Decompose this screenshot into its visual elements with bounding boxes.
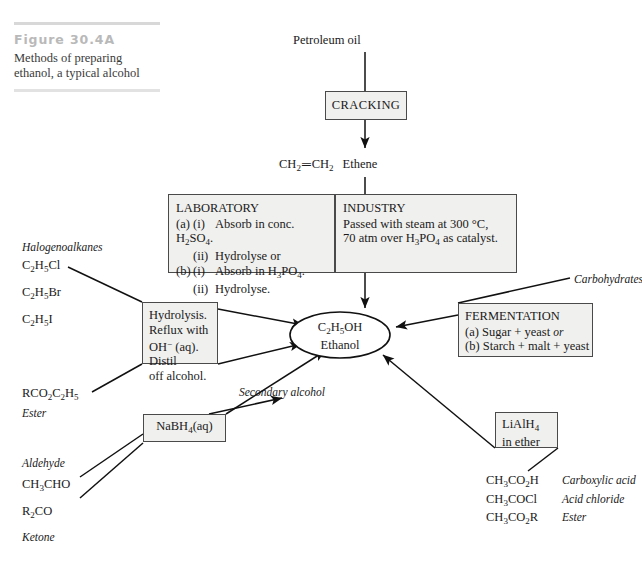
laboratory-step: (ii)Hydrolyse or	[176, 249, 334, 264]
product-row: CH3CO2HCarboxylic acid	[486, 473, 636, 492]
ethanol-name: Ethanol	[290, 338, 390, 352]
product-name: Ester	[562, 511, 586, 523]
laboratory-step-text: Hydrolyse or	[215, 249, 281, 263]
formula-part: C	[52, 386, 60, 400]
ethene-c-b: CH	[312, 157, 329, 171]
formula-part: R	[530, 510, 538, 524]
hydrolysis-line-1: Hydrolysis.	[149, 308, 217, 323]
nabh4-box: NaBH4(aq)	[143, 414, 226, 442]
line-ester-to-hydrolysis	[92, 364, 142, 392]
formula-part: CH	[486, 492, 503, 506]
fermentation-option-b: (b) Starch + malt + yeast	[465, 339, 592, 354]
formula-part: CO	[508, 473, 525, 487]
ketone-formula: R2CO	[22, 504, 52, 522]
laboratory-step-mid: SO	[190, 231, 206, 245]
industry-title: INDUSTRY	[343, 201, 516, 216]
secondary-alcohol-label: Secondary alcohol	[239, 385, 325, 399]
laboratory-step-roman: (i)	[193, 264, 215, 279]
arrow-nabh4-to-ethanol	[226, 351, 325, 414]
line-carbohydrates-to-fermentation	[458, 278, 570, 303]
lialh4-box: LiAlH4 in ether	[495, 412, 558, 448]
ketone-label: Ketone	[22, 530, 55, 544]
fermentation-title: FERMENTATION	[465, 309, 592, 324]
laboratory-step-marker: (a)	[176, 217, 193, 232]
industry-line-2: 70 atm over H3PO4 as catalyst.	[343, 231, 516, 249]
ester-formula: RCO2C2H5	[22, 386, 79, 404]
cracking-label: CRACKING	[332, 98, 400, 113]
ethene-double-bond: ═	[302, 157, 311, 171]
formula-part: H	[35, 258, 44, 272]
ethene-c-a: CH	[279, 157, 296, 171]
laboratory-step-marker: (b)	[176, 264, 193, 279]
laboratory-step-post: .	[210, 231, 213, 245]
ethene-label: CH2═CH2Ethene	[279, 157, 377, 175]
laboratory-step: (a)(i)Absorb in conc. H2SO4.	[176, 217, 334, 250]
formula-sub: 5	[74, 392, 79, 402]
hydrolysis-line-3: OH− (aq). Distil	[149, 337, 217, 369]
laboratory-step: (b)(i)Absorb in H3PO4.	[176, 264, 334, 282]
nabh4-formula: NaBH4(aq)	[156, 419, 213, 437]
formula-part: Br	[48, 285, 61, 299]
product-name: Acid chloride	[562, 493, 624, 505]
formula-part: H	[35, 312, 44, 326]
line-products-to-lialh4	[528, 448, 558, 471]
formula-part: CO	[508, 510, 525, 524]
laboratory-step-roman: (ii)	[193, 249, 215, 264]
formula-part: OH	[344, 320, 362, 334]
formula-part: CH	[486, 510, 503, 524]
halogenoalkanes-label: Halogenoalkanes	[22, 240, 102, 254]
laboratory-title: LABORATORY	[176, 201, 334, 216]
industry-box: INDUSTRY Passed with steam at 300 °C, 70…	[335, 194, 517, 273]
lialh4-formula: LiAlH4	[502, 417, 557, 435]
hydrolysis-line-2: Reflux with	[149, 323, 217, 338]
ethene-sub-a: 2	[296, 163, 301, 173]
fermentation-box: FERMENTATION (a) Sugar + yeast or (b) St…	[458, 303, 593, 357]
petroleum-oil-label: Petroleum oil	[293, 33, 361, 47]
laboratory-step-roman: (ii)	[193, 282, 215, 297]
laboratory-step-mid: PO	[281, 264, 297, 278]
ethanol-formula: C2H5OH	[290, 320, 390, 338]
fermentation-option-a: (a) Sugar + yeast or	[465, 325, 592, 340]
aldehyde-formula: CH3CHO	[22, 477, 70, 495]
formula-part: NaBH	[156, 419, 188, 433]
laboratory-step-text: Hydrolyse.	[215, 282, 270, 296]
ethene-sub-b: 2	[329, 163, 334, 173]
figure-page: Figure 30.4A Methods of preparing ethano…	[0, 0, 642, 562]
formula-part: C	[318, 320, 326, 334]
halogenoalkane-item: C2H5I	[22, 312, 53, 330]
product-row: CH3CO2REster	[486, 510, 636, 529]
industry-line2-mid: PO	[419, 231, 435, 245]
aldehyde-label: Aldehyde	[22, 456, 65, 470]
formula-part: H	[331, 320, 340, 334]
formula-part: H	[530, 473, 539, 487]
cracking-box: CRACKING	[325, 91, 407, 120]
formula-sub: 4	[535, 423, 540, 433]
product-row: CH3COClAcid chloride	[486, 492, 636, 511]
carbohydrates-label: Carbohydrates	[574, 272, 642, 286]
formula-part: H	[35, 285, 44, 299]
lialh4-solvent: in ether	[502, 435, 557, 450]
industry-line-1: Passed with steam at 300 °C,	[343, 217, 516, 232]
line-halogenoalkanes-to-hydrolysis	[68, 267, 142, 302]
arrow-lialh4-to-ethanol	[383, 355, 495, 448]
hydrolysis-oh: OH	[149, 340, 167, 354]
formula-part: RCO	[22, 386, 48, 400]
laboratory-box: LABORATORY (a)(i)Absorb in conc. H2SO4. …	[168, 194, 335, 273]
formula-part: H	[65, 386, 74, 400]
industry-line2-pre: 70 atm over H	[343, 231, 415, 245]
right-products-list: CH3CO2HCarboxylic acid CH3COClAcid chlor…	[486, 473, 636, 529]
arrow-nabh4-to-secondary-alcohol	[209, 398, 282, 414]
arrow-hydrolysis-to-ethanol-lower	[218, 344, 301, 364]
fermentation-option-a-or: or	[553, 326, 563, 338]
formula-part: CHO	[44, 477, 70, 491]
fermentation-option-a-text: (a) Sugar + yeast	[465, 325, 553, 339]
product-name: Carboxylic acid	[562, 474, 636, 486]
formula-part: CH	[486, 473, 503, 487]
formula-part: COCl	[508, 492, 537, 506]
formula-part: CH	[22, 477, 39, 491]
arrow-fermentation-to-ethanol	[396, 315, 458, 327]
formula-part: CO	[35, 504, 52, 518]
product-formula: CH3COCl	[486, 492, 562, 511]
industry-line2-post: as catalyst.	[440, 231, 498, 245]
hydrolysis-line-4: off alcohol.	[149, 369, 217, 384]
